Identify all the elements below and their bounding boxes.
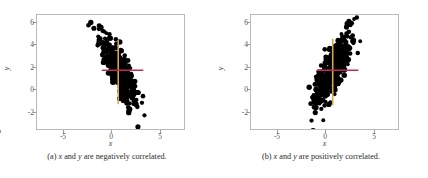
plot-block-b: 6 4 2 0 -2 -5 0 5 x y (214, 0, 428, 146)
y-tick-label: 4 (0, 40, 34, 49)
scatter-svg-b (251, 15, 398, 129)
subfigure-b: 6 4 2 0 -2 -5 0 5 x y (b) x and y are p (214, 0, 428, 178)
plot-block-a: 6 4 2 0 -2 -5 0 5 x y (0, 0, 214, 146)
caption-b: (b) x and y are positively correlated. (214, 152, 428, 161)
x-axis-label-b: x (250, 139, 399, 148)
y-axis-label-a: y (2, 67, 11, 71)
scatter-svg-a (37, 15, 184, 129)
caption-b-mid: and (277, 152, 293, 161)
x-tick-mark (0, 130, 1, 133)
x-axis-label-a: x (36, 139, 185, 148)
y-tick-label: -2 (0, 108, 34, 117)
y-tick-label: -2 (214, 108, 248, 117)
caption-b-post: are positively correlated. (297, 152, 380, 161)
plot-area-b (250, 14, 399, 130)
scatter-points-b (306, 15, 362, 129)
caption-b-tag: (b) (262, 152, 274, 161)
y-tick-label: 4 (214, 40, 248, 49)
figure-two-scatterplots: 6 4 2 0 -2 -5 0 5 x y (0, 0, 428, 178)
caption-a: (a) x and y are negatively correlated. (0, 152, 214, 161)
plot-area-a (36, 14, 185, 130)
y-tick-label: 0 (214, 85, 248, 94)
caption-a-mid: and (62, 152, 78, 161)
y-tick-label: 0 (0, 85, 34, 94)
caption-a-post: are negatively correlated. (82, 152, 167, 161)
subfigure-a: 6 4 2 0 -2 -5 0 5 x y (0, 0, 214, 178)
caption-a-tag: (a) (47, 152, 58, 161)
y-tick-label: 6 (214, 18, 248, 27)
scatter-points-a (86, 20, 146, 129)
y-axis-label-b: y (216, 67, 225, 71)
y-tick-label: 6 (0, 18, 34, 27)
